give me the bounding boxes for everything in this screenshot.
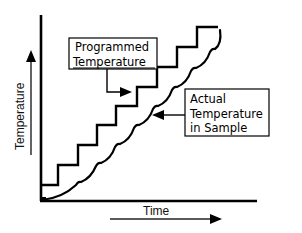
x-arrow-head-icon (210, 214, 222, 224)
y-axis-label: Temperature (13, 82, 27, 150)
programmed-label-line2: Temperature (72, 55, 146, 69)
programmed-label-line1: Programmed (75, 40, 149, 54)
programmed-leader-line (107, 69, 122, 92)
temperature-program-diagram: Temperature Time Programmed Temperature … (0, 0, 302, 233)
programmed-leader-arrow-icon (120, 87, 132, 97)
y-arrow-head-icon (26, 50, 36, 62)
actual-label-line1: Actual (190, 92, 226, 106)
x-axis-label: Time (143, 204, 170, 218)
actual-label-line2: Temperature (189, 107, 263, 121)
actual-label-line3: in Sample (190, 121, 247, 135)
actual-leader-arrow-icon (152, 110, 164, 120)
